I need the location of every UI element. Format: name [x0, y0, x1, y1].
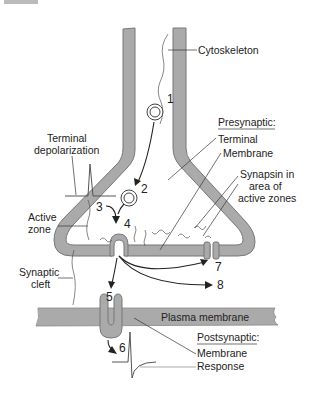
arrow-to-5: [112, 258, 117, 283]
label-terminal-depol-2: depolarization: [34, 144, 100, 156]
label-post-response: Response: [197, 360, 244, 372]
step-2: 2: [141, 182, 148, 196]
step-8: 8: [217, 278, 224, 292]
label-post-membrane: Membrane: [197, 347, 247, 359]
depolarization-leader: [72, 156, 76, 195]
label-synapsin-2: area of: [249, 180, 282, 192]
label-plasma-membrane: Plasma membrane: [161, 311, 249, 323]
label-synaptic-cleft-1: Synaptic: [19, 266, 59, 278]
arrowhead: [205, 281, 213, 289]
label-active-zone-1: Active: [28, 211, 57, 223]
step-7: 7: [215, 260, 222, 274]
vesicle-1: [147, 104, 163, 120]
label-terminal-depol-1: Terminal: [47, 132, 87, 144]
arrow-to-8: [119, 256, 207, 285]
postsynaptic-response-trace: [112, 332, 156, 378]
label-postsynaptic: Postsynaptic:: [197, 331, 259, 343]
label-synapsin-3: active zones: [238, 192, 296, 204]
step-4: 4: [124, 217, 131, 231]
arrow-2-to-3: [118, 204, 124, 214]
label-synapsin-1: Synapsin in: [240, 168, 294, 180]
label-membrane: Membrane: [223, 147, 273, 159]
corner-tab: [4, 0, 38, 4]
arrowhead: [112, 216, 120, 224]
label-terminal: Terminal: [218, 133, 258, 145]
synapse-diagram: Cytoskeleton 1 2 Terminal depolarization…: [0, 0, 312, 401]
vesicle-2: [121, 190, 137, 206]
synaptic-cleft-bracket: [72, 250, 75, 305]
label-cytoskeleton: Cytoskeleton: [198, 44, 259, 56]
arrowhead: [108, 281, 115, 289]
step-5: 5: [106, 290, 113, 304]
step-1: 1: [167, 92, 174, 106]
arrowhead: [134, 178, 141, 186]
step-6: 6: [119, 341, 126, 355]
arrow-to-7: [119, 256, 205, 269]
label-synaptic-cleft-2: cleft: [31, 278, 50, 290]
step-3: 3: [96, 200, 103, 214]
label-active-zone-2: zone: [28, 223, 51, 235]
arrow-1-to-2: [138, 122, 154, 182]
label-presynaptic: Presynaptic:: [218, 116, 276, 128]
